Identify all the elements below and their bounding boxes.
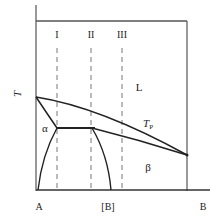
alpha-phase-label: α (42, 122, 48, 134)
phase-diagram: T I II III L α β TP A [B] B (0, 0, 220, 220)
b-melting-point (186, 154, 189, 157)
beta-phase-label: β (145, 161, 151, 173)
liquid-phase-label: L (136, 81, 143, 93)
peritectic-temperature-label: TP (143, 117, 153, 131)
composition-label-III: III (117, 29, 127, 40)
x-marker-label: [B] (101, 201, 114, 212)
liquidus-curve (36, 97, 187, 155)
composition-label-II: II (88, 29, 95, 40)
composition-label-I: I (55, 29, 58, 40)
beta-solidus-curve (92, 128, 187, 155)
x-left-label: A (35, 201, 43, 212)
y-axis-label: T (11, 90, 23, 97)
x-right-label: B (200, 201, 207, 212)
beta-solvus-curve (92, 128, 111, 190)
alpha-solvus-curve (38, 128, 57, 190)
